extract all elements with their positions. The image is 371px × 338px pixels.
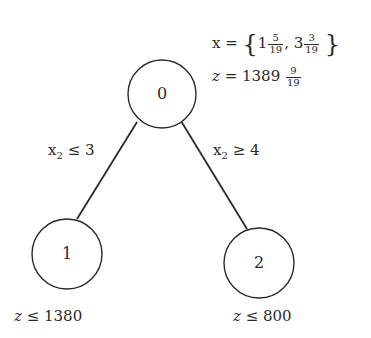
close-brace: } — [325, 30, 340, 58]
edge-0-2 — [181, 121, 247, 229]
z-var: z — [212, 67, 220, 85]
root-z-value: z = 1389 919 — [212, 66, 302, 88]
open-brace: { — [243, 30, 258, 58]
edge-0-1-label: x2 ≤ 3 — [48, 143, 95, 161]
separator: , — [284, 34, 289, 52]
node-0-label: 0 — [147, 86, 177, 102]
node-1-label: 1 — [52, 246, 82, 262]
edge-0-1 — [77, 122, 137, 219]
root-x-solution: x = {1519, 3319 } — [212, 32, 340, 56]
x-lhs: x = — [212, 34, 238, 52]
edge-0-2-label: x2 ≥ 4 — [213, 143, 260, 161]
x2-whole: 3 — [294, 34, 304, 52]
z-eq: = 1389 — [225, 67, 281, 85]
x1-fraction: 519 — [268, 33, 283, 55]
x1-whole: 1 — [258, 34, 268, 52]
node-2-label: 2 — [244, 255, 274, 271]
x2-fraction: 319 — [304, 33, 319, 55]
z-fraction: 919 — [286, 66, 301, 88]
node-1-bound: z ≤ 1380 — [14, 309, 82, 324]
node-2-bound: z ≤ 800 — [233, 309, 292, 324]
